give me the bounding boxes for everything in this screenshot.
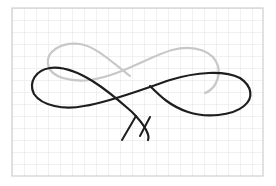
sketch-canvas [0, 0, 276, 186]
